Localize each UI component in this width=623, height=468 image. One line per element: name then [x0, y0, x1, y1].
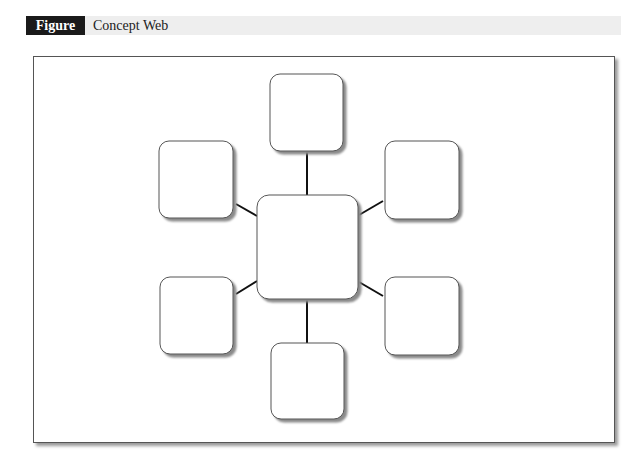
connector-top-left — [236, 204, 257, 216]
connector-bottom-left — [236, 281, 257, 294]
concept-box-top-right — [385, 141, 459, 219]
concept-box-top — [270, 74, 343, 151]
center-concept-box — [257, 195, 358, 299]
nodes — [159, 74, 459, 419]
connector-bottom-right — [359, 282, 383, 296]
concept-box-bottom — [271, 343, 344, 419]
concept-box-top-left — [159, 141, 233, 218]
concept-web-diagram — [0, 0, 623, 468]
concept-box-bottom-right — [385, 277, 459, 355]
connector-top-right — [359, 201, 383, 215]
concept-box-bottom-left — [160, 277, 233, 354]
